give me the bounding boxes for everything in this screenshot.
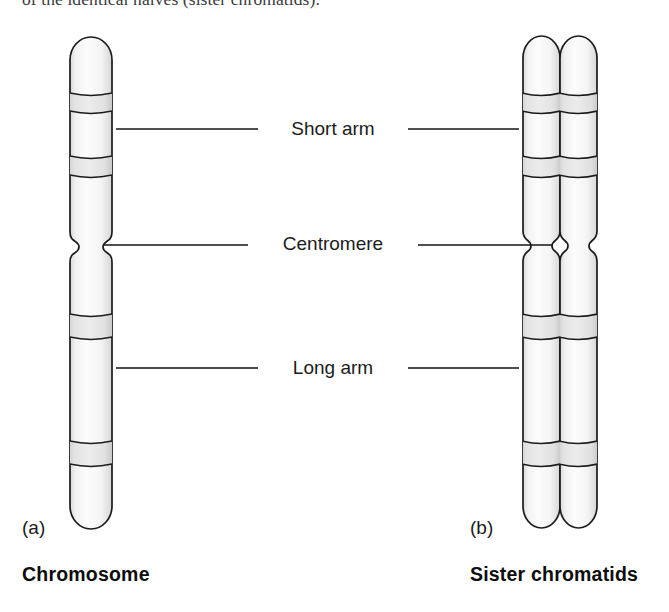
panel-caption-chromosome: Chromosome — [22, 563, 150, 586]
band — [556, 155, 601, 178]
band — [556, 313, 601, 340]
band — [556, 92, 601, 114]
panel-letter-b: (b) — [470, 517, 493, 539]
panel-caption-sister-chromatids: Sister chromatids — [470, 563, 638, 586]
band — [519, 313, 564, 340]
callout-label-short-arm: Short arm — [268, 118, 398, 140]
band — [519, 440, 564, 467]
band — [66, 440, 116, 467]
callout-label-centromere: Centromere — [258, 233, 408, 255]
band — [66, 92, 116, 114]
panel-letter-a: (a) — [22, 517, 45, 539]
band — [519, 155, 564, 178]
band — [519, 92, 564, 114]
band — [66, 313, 116, 340]
band — [66, 155, 116, 178]
chromosome-diagram — [0, 0, 669, 612]
callout-label-long-arm: Long arm — [268, 357, 398, 379]
figure-page: of the identical halves (sister chromati… — [0, 0, 669, 612]
chromosome-sister-chromatids — [519, 36, 601, 528]
chromosome-single — [66, 37, 116, 529]
band — [556, 440, 601, 467]
